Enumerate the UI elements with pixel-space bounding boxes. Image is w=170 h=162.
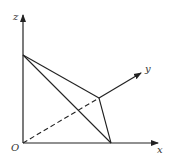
y-axis-label: y [144,63,151,74]
edge-Z-X [23,55,111,143]
z-axis-label: z [12,11,19,22]
hidden-edge-OP [23,98,99,143]
x-axis-label: x [157,144,163,155]
diagram-canvas: z y x O [0,0,170,162]
origin-label: O [11,142,19,153]
y-axis [99,73,141,98]
edge-Z-P [23,55,99,98]
